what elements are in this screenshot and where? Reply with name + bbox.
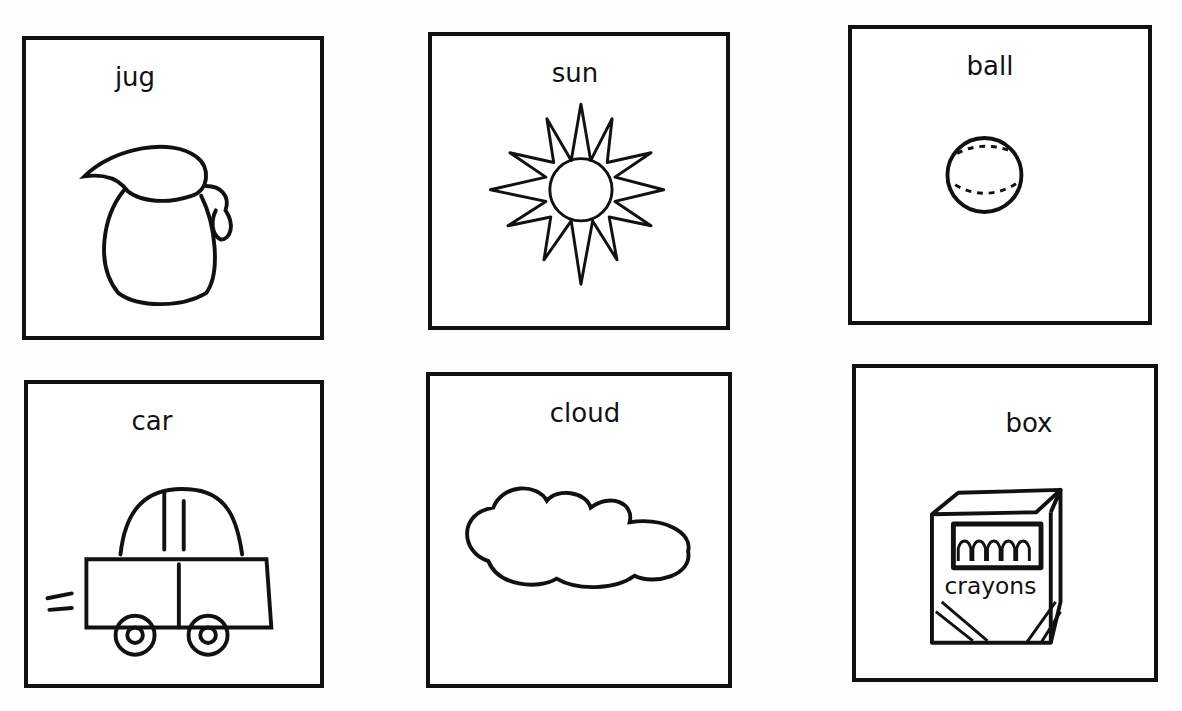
sun-icon [432, 36, 726, 326]
card-box: box crayons [852, 364, 1158, 682]
card-ball: ball [848, 25, 1152, 325]
card-jug: jug [22, 36, 324, 340]
ball-icon [852, 29, 1148, 321]
card-sun: sun [428, 32, 730, 330]
car-icon [28, 384, 320, 684]
crayon-box-icon: crayons [856, 368, 1154, 678]
box-text: crayons [944, 572, 1036, 600]
card-car: car [24, 380, 324, 688]
jug-icon [26, 40, 320, 336]
card-cloud: cloud [426, 372, 732, 688]
cloud-icon [430, 376, 728, 684]
